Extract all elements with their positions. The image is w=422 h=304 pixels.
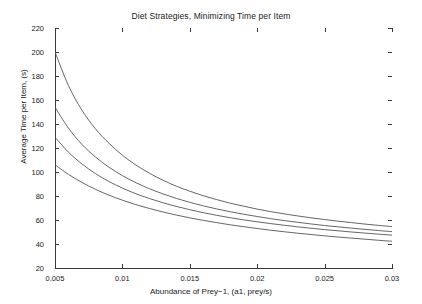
y-axis-label: Average Time per Item, (s) [19, 32, 28, 202]
y-tick-label: 40 [0, 240, 50, 249]
x-axis-line [55, 268, 393, 269]
x-tick-label: 0.015 [160, 274, 220, 283]
y-tick-label: 20 [0, 264, 50, 273]
data-curves [55, 28, 392, 268]
plot-area [55, 28, 392, 268]
x-tick-mark [392, 264, 393, 268]
y-tick-mark [55, 268, 59, 269]
y-tick-mark-right [388, 268, 392, 269]
x-tick-label: 0.02 [227, 274, 287, 283]
curve-strategy-3 [55, 137, 392, 235]
x-tick-label: 0.005 [25, 274, 85, 283]
curve-strategy-2 [55, 107, 392, 231]
chart-title: Diet Strategies, Minimizing Time per Ite… [0, 11, 422, 21]
x-tick-label: 0.025 [295, 274, 355, 283]
x-axis-label: Abundance of Prey−1, (a1, prey/s) [0, 287, 422, 296]
curve-strategy-4 [55, 165, 392, 241]
y-tick-label: 60 [0, 216, 50, 225]
x-tick-label: 0.01 [92, 274, 152, 283]
x-tick-label: 0.03 [362, 274, 422, 283]
x-tick-mark-top [392, 28, 393, 32]
curve-strategy-1 [55, 52, 392, 227]
figure-canvas: Diet Strategies, Minimizing Time per Ite… [0, 0, 422, 304]
